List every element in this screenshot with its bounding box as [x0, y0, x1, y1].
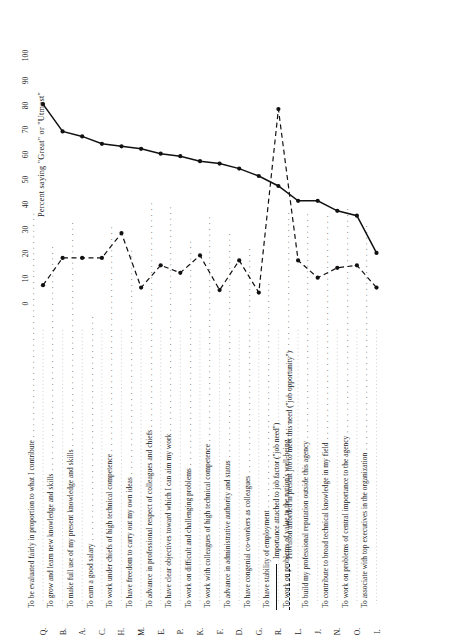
data-point: [80, 134, 84, 138]
data-point: [100, 142, 104, 146]
data-point: [296, 199, 300, 203]
category-label: To advance in professional respect of co…: [145, 308, 157, 608]
category-label: To work under chiefs of high technical c…: [105, 308, 117, 608]
category-code: L.: [294, 625, 303, 639]
category-code: D.: [235, 625, 244, 639]
category-code: H.: [117, 625, 126, 639]
category-label: To have congenial co-workers as colleagu…: [243, 308, 255, 608]
leader-dots-text: . . . . . . . . . . . . . . . . . . . . …: [361, 225, 369, 453]
legend-swatch-dashed: [289, 564, 291, 610]
leader-dots-text: . . . . . . . . . . . . . . . . . . . . …: [185, 240, 193, 468]
data-point: [237, 258, 241, 262]
data-point: [316, 276, 320, 280]
data-point: [218, 288, 222, 292]
category-code: N.: [333, 625, 342, 639]
data-point: [61, 256, 65, 260]
category-code: C.: [97, 625, 106, 639]
data-point: [41, 283, 45, 287]
legend-swatch-solid: [276, 564, 278, 610]
data-point: [374, 251, 378, 255]
category-label: To earn a good salary . . . . . . . . . …: [86, 308, 98, 608]
category-code: E.: [156, 625, 165, 639]
leader-dots-text: . . . . . . . . . . . . . . . . . . . . …: [106, 226, 114, 454]
category-code: R.: [274, 625, 283, 639]
category-label: To work on problems of central importanc…: [341, 308, 353, 608]
data-point: [374, 286, 378, 290]
leader-dots-text: . . . . . . . . . . . . . . . . . . . . …: [204, 216, 212, 444]
data-point: [355, 263, 359, 267]
leader-dots-text: . . . . . . . . . . . . . . . . . . . . …: [244, 248, 252, 476]
chart-figure: Percent saying "Great" or "Utmost" 01020…: [0, 0, 469, 644]
leader-dots-text: . . . . . . . . . . . . . . . . . . . . …: [146, 202, 154, 430]
data-point: [139, 147, 143, 151]
data-point: [237, 167, 241, 171]
category-label: To have freedom to carry out my own idea…: [125, 308, 137, 608]
category-label: To contribute to broad technical knowled…: [321, 308, 333, 608]
category-label: To build my professional reputation outs…: [301, 308, 313, 608]
data-point: [335, 266, 339, 270]
leader-dots-text: . . . . . . . . . . . . . . . . . . . . …: [302, 213, 310, 441]
data-point: [159, 152, 163, 156]
data-point: [257, 174, 261, 178]
data-point: [139, 286, 143, 290]
data-point: [257, 291, 261, 295]
category-code: Q.: [39, 625, 48, 639]
data-point: [316, 199, 320, 203]
leader-dots-text: . . . . . . . . . . . . . . . . . . . . …: [165, 206, 173, 434]
data-point: [159, 263, 163, 267]
category-label: To associate with top executives in the …: [360, 308, 372, 608]
data-point: [61, 129, 65, 133]
leader-dots-text: . . . . . . . . . . . . . . . . . . . . …: [67, 221, 75, 449]
category-code: O.: [352, 625, 361, 639]
leader-dots-text: . . . . . . . . . . . . . . . . . . . . …: [224, 232, 232, 460]
data-point: [119, 144, 123, 148]
leader-dots-text: . . . . . . . . . . . . . . . . . . . . …: [126, 249, 134, 477]
leader-dots-text: . . . . . . . . . . . . . . . . . . . . …: [28, 212, 36, 440]
leader-dots-text: . . . . . . . . . . . . . . . . . . . . …: [322, 214, 330, 442]
data-point: [198, 253, 202, 257]
category-code: B.: [58, 625, 67, 639]
category-code: P.: [176, 625, 185, 639]
data-point: [41, 102, 45, 106]
data-point: [218, 162, 222, 166]
data-point: [178, 271, 182, 275]
data-point: [276, 184, 280, 188]
category-code: M.: [137, 625, 146, 639]
category-code: K.: [195, 625, 204, 639]
data-point: [355, 214, 359, 218]
chart-legend: Importance attached to job factor ("job …: [270, 310, 296, 610]
leader-dots-text: . . . . . . . . . . . . . . . . . . . . …: [47, 246, 55, 474]
data-point: [100, 256, 104, 260]
legend-item-job-opportunity: Provision afforded in present job to mee…: [283, 310, 296, 610]
data-point: [119, 231, 123, 235]
category-code: I.: [372, 625, 381, 639]
category-code: A.: [78, 625, 87, 639]
leader-dots-text: . . . . . . . . . . . . . . . . . . . . …: [342, 208, 350, 436]
data-point: [276, 107, 280, 111]
category-label: To grow and learn new knowledge and skil…: [46, 308, 58, 608]
legend-label-job-opportunity: Provision afforded in present job to mee…: [285, 351, 294, 559]
category-label: To advance in administrative authority a…: [223, 308, 235, 608]
leader-dots-text: . . . . . . . . . . . . . . . . . . . . …: [87, 315, 95, 543]
category-code: F.: [215, 625, 224, 639]
category-label: To work on difficult and challenging pro…: [184, 308, 196, 608]
data-point: [335, 209, 339, 213]
category-label: To have clear objectives toward which I …: [164, 308, 176, 608]
data-point: [296, 258, 300, 262]
category-label: To work with colleagues of high technica…: [203, 308, 215, 608]
data-point: [80, 256, 84, 260]
category-label: To make full use of my present knowledge…: [66, 308, 78, 608]
category-code: G.: [254, 625, 263, 639]
data-point: [198, 159, 202, 163]
category-code: J.: [313, 625, 322, 639]
legend-label-job-need: Importance attached to job factor ("job …: [272, 423, 281, 559]
data-point: [178, 154, 182, 158]
legend-item-job-need: Importance attached to job factor ("job …: [270, 310, 283, 610]
category-label: To be evaluated fairly in proportion to …: [27, 308, 39, 608]
